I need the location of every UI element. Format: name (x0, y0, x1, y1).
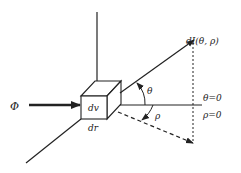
volume-element-cube (81, 81, 121, 119)
flux-label: Φ (10, 100, 19, 113)
theta-zero-label: θ=0 (203, 93, 222, 103)
radiance-label: dI(θ, ρ) (186, 36, 219, 46)
rho-arc (142, 105, 153, 120)
path-element-label: dr (88, 123, 99, 133)
radiance-arrow (120, 40, 194, 93)
scattering-diagram: Φ dv dr dI(θ, ρ) θ ρ θ=0 ρ=0 (0, 0, 241, 173)
volume-element-label: dv (88, 103, 99, 113)
rho-label: ρ (154, 111, 161, 121)
rho-zero-label: ρ=0 (202, 110, 222, 120)
theta-arc (137, 83, 145, 105)
depth-axis (26, 119, 81, 163)
theta-label: θ (147, 86, 153, 96)
